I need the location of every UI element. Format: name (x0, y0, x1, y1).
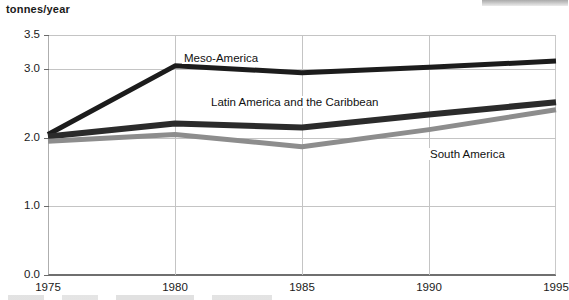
x-tick-label-1980: 1980 (162, 281, 188, 293)
y-tick-label-2.0: 2.0 (4, 131, 40, 143)
x-tick-label-1985: 1985 (289, 281, 315, 293)
gridline-y-0.0 (48, 275, 556, 276)
y-tick-mark (44, 275, 49, 276)
y-tick-label-0.0: 0.0 (4, 268, 40, 280)
x-tick-label-1975: 1975 (35, 281, 61, 293)
series-label-south-america: South America (428, 148, 507, 160)
y-tick-label-3.0: 3.0 (4, 62, 40, 74)
x-tick-label-1995: 1995 (543, 281, 569, 293)
y-tick-label-1.0: 1.0 (4, 199, 40, 211)
series-label-latin-america-caribbean: Latin America and the Caribbean (209, 96, 381, 108)
scan-artifact-smudge (482, 0, 568, 6)
x-tick-label-1990: 1990 (416, 281, 442, 293)
series-label-meso-america: Meso-America (182, 52, 260, 64)
y-tick-label-3.5: 3.5 (4, 28, 40, 40)
cut-off-caption-fragment (8, 295, 308, 300)
y-axis-unit-title: tonnes/year (6, 3, 70, 15)
